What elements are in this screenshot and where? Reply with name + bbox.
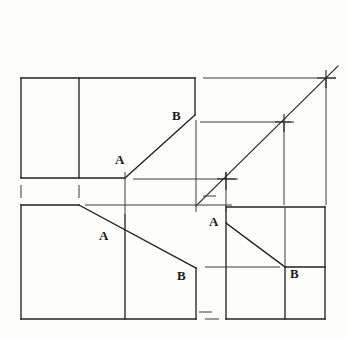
label-top-view-B: B — [172, 109, 181, 122]
miter-line-group — [196, 66, 338, 206]
label-side-view-A: A — [209, 215, 219, 228]
label-side-view-B: B — [290, 267, 299, 280]
projection-lines-group — [85, 78, 336, 267]
side-view-diagonal-A — [226, 223, 285, 267]
front-view-group — [21, 205, 196, 319]
drawing-canvas — [0, 0, 348, 338]
label-front-view-B: B — [177, 269, 186, 282]
miter-crossing-upper-tick — [317, 70, 336, 88]
top-view-group — [21, 78, 195, 178]
technical-drawing-sheet: B A A B A B — [0, 0, 348, 338]
45-degree-miter-line — [196, 66, 338, 206]
miter-crossing-middle-tick — [275, 114, 294, 132]
miter-crossing-lower-tick — [217, 172, 236, 190]
miter-crossing-ticks-group — [217, 70, 336, 190]
label-front-view-A: A — [99, 229, 109, 242]
top-view-diagonal-AB — [125, 115, 195, 178]
front-view-slope-AB — [79, 205, 196, 268]
side-view-group — [226, 207, 325, 319]
label-top-view-A: A — [115, 153, 125, 166]
